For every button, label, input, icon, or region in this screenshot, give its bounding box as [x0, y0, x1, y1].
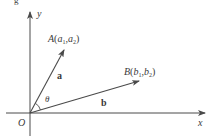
angle-theta-label: θ	[45, 94, 50, 104]
cropped-label-fragment: g	[14, 0, 19, 5]
vector-a-label: a	[57, 70, 62, 81]
angle-arc	[35, 103, 40, 110]
vector-b-label: b	[101, 97, 107, 108]
origin-label: O	[18, 117, 25, 128]
point-a-label: A(a1,a2)	[47, 33, 79, 45]
y-axis-label: y	[36, 8, 42, 19]
point-b-label: B(b1,b2)	[124, 66, 155, 78]
vector-angle-diagram: g y x O A(a1,a2) B(b1,b2) a b θ	[0, 0, 207, 136]
x-axis-label: x	[197, 117, 203, 128]
